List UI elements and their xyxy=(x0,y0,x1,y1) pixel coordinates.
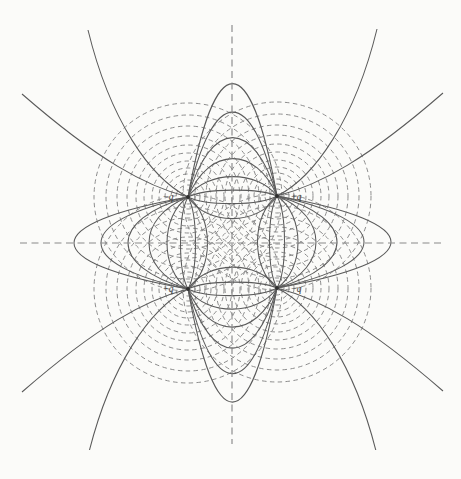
charge-label-top-left: −q xyxy=(162,192,173,202)
charge-dot-bottom-right xyxy=(275,286,279,290)
figure-caption xyxy=(0,452,461,479)
figure-plate: −q +q +q −q xyxy=(0,0,461,450)
charge-dot-top-left xyxy=(186,195,190,199)
charge-label-top-right: +q xyxy=(290,192,301,202)
charge-dot-top-right xyxy=(275,194,279,198)
figure-caption-text xyxy=(0,452,461,458)
fieldlines-right-pair xyxy=(258,196,392,288)
charge-label-bottom-left: +q xyxy=(162,284,173,294)
symmetry-axes xyxy=(20,25,444,444)
quadrupole-field-diagram: −q +q +q −q xyxy=(0,0,461,450)
charge-label-bottom-right: −q xyxy=(290,284,301,294)
figure-page: −q +q +q −q xyxy=(0,0,461,479)
charge-dot-bottom-left xyxy=(186,287,190,291)
